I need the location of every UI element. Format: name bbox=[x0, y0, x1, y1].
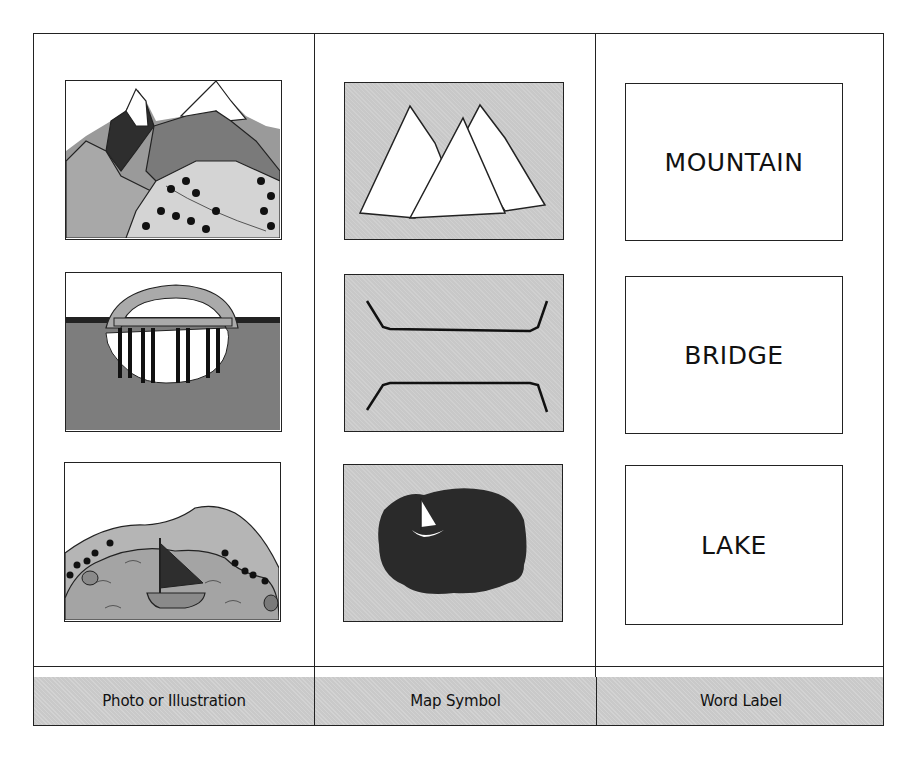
column-divider-1 bbox=[314, 33, 315, 726]
word-label-text: BRIDGE bbox=[684, 341, 783, 370]
lake-symbol-icon bbox=[344, 465, 561, 620]
mountain-peaks-symbol-icon bbox=[345, 83, 562, 238]
word-label-text: MOUNTAIN bbox=[665, 148, 804, 177]
column-heading-row: Photo or Illustration Map Symbol Word La… bbox=[34, 677, 883, 725]
bridge-illustration bbox=[65, 272, 282, 432]
column-heading-map-symbol: Map Symbol bbox=[314, 677, 596, 725]
word-label-text: LAKE bbox=[701, 531, 767, 560]
column-heading-word-label: Word Label bbox=[596, 677, 885, 725]
bridge-map-symbol bbox=[344, 274, 564, 432]
footer-divider-top bbox=[33, 666, 884, 667]
mountain-word-label: MOUNTAIN bbox=[625, 83, 843, 241]
mountain-scene-icon bbox=[66, 81, 280, 238]
mountain-illustration bbox=[65, 80, 282, 240]
lake-sailboat-scene-icon bbox=[65, 463, 279, 620]
arch-bridge-scene-icon bbox=[66, 273, 280, 430]
lake-word-label: LAKE bbox=[625, 465, 843, 625]
column-heading-photo: Photo or Illustration bbox=[34, 677, 314, 725]
lake-map-symbol bbox=[343, 464, 563, 622]
mountain-map-symbol bbox=[344, 82, 564, 240]
bridge-word-label: BRIDGE bbox=[625, 276, 843, 434]
column-divider-2 bbox=[595, 33, 596, 726]
lake-illustration bbox=[64, 462, 281, 622]
bridge-symbol-icon bbox=[345, 275, 562, 430]
